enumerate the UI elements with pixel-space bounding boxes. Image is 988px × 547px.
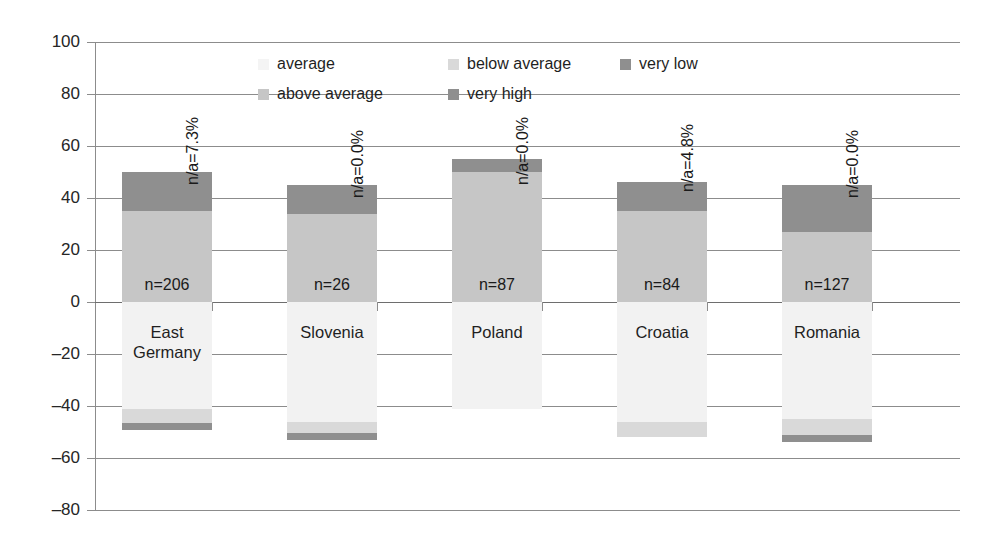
n-value: n=206	[122, 277, 212, 293]
n-value: n=127	[782, 277, 872, 293]
axis-tick-40	[87, 198, 95, 199]
y-tick-20: 20	[22, 241, 80, 258]
legend-label-above-average: above average	[277, 86, 383, 102]
n-value: n=84	[617, 277, 707, 293]
legend-item-below-average[interactable]: below average	[448, 56, 571, 72]
segment-below-average	[287, 422, 377, 433]
axis-tick-minus-40	[87, 406, 95, 407]
y-axis-labels: 100 80 60 40 20 0 –20 –40 –60 –80	[14, 0, 80, 547]
na-value: n/a=4.8%	[680, 124, 696, 192]
segment-average	[782, 302, 872, 419]
legend-item-average[interactable]: average	[258, 56, 335, 72]
n-value: n=87	[452, 277, 542, 293]
y-tick-80: 80	[22, 85, 80, 102]
category-label-line1: East	[122, 322, 212, 342]
legend-swatch-very-low-icon	[620, 59, 631, 70]
axis-tick-20	[87, 250, 95, 251]
legend: average below average very low above ave…	[258, 56, 728, 112]
x-tick-5	[872, 302, 873, 311]
legend-label-average: average	[277, 56, 335, 72]
axis-tick-0	[87, 302, 95, 303]
segment-average	[617, 302, 707, 422]
legend-item-above-average[interactable]: above average	[258, 86, 383, 102]
category-label-line1: Romania	[782, 322, 872, 342]
segment-below-average	[617, 422, 707, 437]
segment-very-low	[122, 423, 212, 430]
y-tick-60: 60	[22, 137, 80, 154]
y-tick-minus-60: –60	[22, 449, 80, 466]
bar-group-romania[interactable]: n/a=0.0% n=127 Romania	[782, 0, 872, 547]
legend-label-very-high: very high	[467, 86, 532, 102]
axis-tick-minus-20	[87, 354, 95, 355]
segment-average	[287, 302, 377, 422]
legend-item-very-low[interactable]: very low	[620, 56, 698, 72]
axis-tick-minus-80	[87, 510, 95, 511]
x-tick-2	[377, 302, 378, 311]
legend-item-very-high[interactable]: very high	[448, 86, 532, 102]
segment-very-low	[287, 433, 377, 440]
na-value: n/a=0.0%	[515, 117, 531, 185]
axis-tick-80	[87, 94, 95, 95]
axis-tick-60	[87, 146, 95, 147]
legend-label-very-low: very low	[639, 56, 698, 72]
category-label-line1: Poland	[452, 322, 542, 342]
segment-below-average	[122, 409, 212, 423]
bar-group-east-germany[interactable]: n/a=7.3% n=206 East Germany	[122, 0, 212, 547]
axis-tick-minus-60	[87, 458, 95, 459]
segment-below-average	[782, 419, 872, 435]
axis-tick-100	[87, 42, 95, 43]
y-tick-minus-20: –20	[22, 345, 80, 362]
y-tick-minus-40: –40	[22, 397, 80, 414]
segment-average	[452, 302, 542, 409]
legend-swatch-very-high-icon	[448, 89, 459, 100]
na-value: n/a=0.0%	[350, 130, 366, 198]
category-label-line2: Germany	[122, 342, 212, 362]
legend-swatch-above-average-icon	[258, 89, 269, 100]
legend-swatch-average-icon	[258, 59, 269, 70]
x-tick-1	[212, 302, 213, 311]
na-value: n/a=0.0%	[845, 130, 861, 198]
x-tick-3	[542, 302, 543, 311]
y-tick-minus-80: –80	[22, 501, 80, 518]
y-tick-100: 100	[22, 33, 80, 50]
y-tick-40: 40	[22, 189, 80, 206]
legend-label-below-average: below average	[467, 56, 571, 72]
segment-very-low	[782, 435, 872, 442]
x-tick-4	[707, 302, 708, 311]
y-tick-0: 0	[22, 293, 80, 310]
n-value: n=26	[287, 277, 377, 293]
category-label-line1: Croatia	[617, 322, 707, 342]
na-value: n/a=7.3%	[185, 117, 201, 185]
stacked-bar-chart: 100 80 60 40 20 0 –20 –40 –60 –80	[0, 0, 988, 547]
category-label-line1: Slovenia	[287, 322, 377, 342]
legend-swatch-below-average-icon	[448, 59, 459, 70]
